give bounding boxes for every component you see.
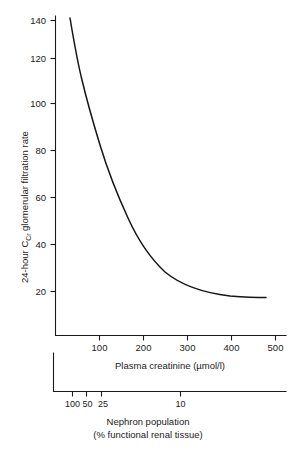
nephron-tick-label-10: 10: [175, 399, 185, 409]
y-axis-title-after: glomerular filtration rate: [19, 131, 30, 233]
y-tick-marks: [51, 21, 56, 292]
secondary-axis-title-line1: Nephron population: [107, 416, 190, 427]
gfr-creatinine-chart: 140 120 100 80 60 40 20 24-hour CCr glom…: [0, 0, 293, 452]
x-tick-label-500: 500: [268, 342, 284, 353]
x-tick-labels: 100 200 300 400 500: [92, 342, 284, 353]
primary-axes: [56, 16, 287, 336]
y-tick-label-20: 20: [35, 286, 46, 297]
x-tick-label-100: 100: [92, 342, 108, 353]
y-tick-label-120: 120: [30, 53, 46, 64]
y-tick-label-100: 100: [30, 98, 46, 109]
secondary-axis-title-line2: (% functional renal tissue): [93, 429, 202, 440]
x-tick-label-200: 200: [136, 342, 152, 353]
y-axis-title: 24-hour CCr glomerular filtration rate: [19, 131, 32, 283]
x-tick-marks: [100, 336, 276, 341]
chart-figure: 140 120 100 80 60 40 20 24-hour CCr glom…: [0, 0, 293, 452]
y-axis-title-before: 24-hour C: [19, 241, 30, 283]
nephron-tick-label-50: 50: [82, 399, 92, 409]
y-tick-label-60: 60: [35, 192, 46, 203]
y-axis-title-group: 24-hour CCr glomerular filtration rate: [19, 131, 32, 283]
y-tick-label-80: 80: [35, 145, 46, 156]
gfr-curve: [70, 18, 266, 298]
secondary-axis-lines: [54, 353, 287, 392]
y-tick-labels: 140 120 100 80 60 40 20: [30, 15, 46, 297]
y-tick-label-140: 140: [30, 15, 46, 26]
x-tick-label-300: 300: [180, 342, 196, 353]
nephron-tick-label-25: 25: [98, 399, 108, 409]
axis-lines: [56, 16, 287, 336]
x-tick-label-400: 400: [224, 342, 240, 353]
secondary-axis-title-group: Nephron population (% functional renal t…: [93, 416, 202, 440]
nephron-tick-label-100: 100: [65, 399, 80, 409]
x-axis-title: Plasma creatinine (µmol/l): [115, 360, 225, 371]
y-tick-label-40: 40: [35, 239, 46, 250]
